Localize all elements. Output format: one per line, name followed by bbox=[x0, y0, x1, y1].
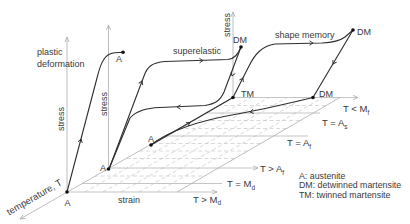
level-label-t-lt-mf: T < Mf bbox=[343, 103, 369, 116]
stress-axis-label-superelastic: stress bbox=[99, 92, 109, 117]
point-marker-dm-loaded bbox=[351, 28, 355, 32]
legend: A: austenite DM: detwinned martensite TM… bbox=[299, 171, 401, 200]
level-label-t-gt-md: T > Md bbox=[193, 194, 221, 207]
point-marker-dm-unloaded bbox=[311, 96, 315, 100]
cooling-path-a-to-tm bbox=[151, 98, 233, 146]
stress-axis-label-shape-memory: stress bbox=[222, 13, 232, 38]
legend-item-detwinned-martensite: DM: detwinned martensite bbox=[299, 180, 401, 190]
dm-unloaded-point-label: DM bbox=[319, 89, 333, 99]
dm-loaded-point-label: DM bbox=[357, 27, 371, 37]
legend-item-austenite: A: austenite bbox=[299, 171, 346, 181]
sma-phase-diagram: plastic deformation superelastic shape m… bbox=[0, 0, 410, 224]
shape-memory-loading-curve bbox=[233, 30, 353, 98]
origin-point-label: A bbox=[65, 198, 71, 208]
plastic-title-line1: plastic bbox=[37, 47, 63, 57]
plastic-end-point-label: A bbox=[116, 54, 122, 64]
stress-axis-label-plastic: stress bbox=[56, 107, 66, 132]
level-label-t-eq-md: T = Md bbox=[227, 178, 255, 191]
plastic-title-line2: deformation bbox=[37, 59, 85, 69]
point-marker-tm bbox=[231, 96, 235, 100]
point-marker-superelastic-peak bbox=[239, 45, 243, 49]
plastic-deformation-curve bbox=[67, 52, 123, 192]
superelastic-title: superelastic bbox=[173, 46, 222, 56]
point-marker-origin bbox=[65, 190, 69, 194]
superelastic-start-point-label: A bbox=[100, 163, 106, 173]
level-label-t-eq-as: T = As bbox=[322, 117, 348, 130]
level-label-t-eq-af: T = Af bbox=[287, 137, 311, 150]
grid-line bbox=[139, 98, 305, 193]
legend-item-twinned-martensite: TM: twinned martensite bbox=[299, 190, 391, 200]
grid-line bbox=[121, 98, 287, 193]
superelastic-peak-point-label: DM bbox=[233, 35, 247, 45]
point-marker-superelastic-start bbox=[107, 167, 111, 171]
tm-point-label: TM bbox=[241, 89, 254, 99]
level-label-t-gt-af: T > Af bbox=[260, 163, 284, 176]
shape-memory-title: shape memory bbox=[275, 30, 335, 40]
strain-axis-label: strain bbox=[118, 195, 140, 205]
shape-memory-start-point-label: A bbox=[148, 134, 154, 144]
diagram-svg: plastic deformation superelastic shape m… bbox=[0, 0, 410, 224]
